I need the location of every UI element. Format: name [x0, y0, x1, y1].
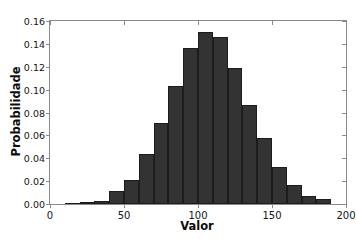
y-tick-label: 0.16 [24, 16, 45, 27]
y-tick-mark [46, 90, 50, 91]
histogram-figure: 0.000.020.040.060.080.100.120.140.16 050… [0, 0, 356, 239]
x-tick-mark-top [124, 21, 125, 25]
histogram-bar [316, 199, 331, 204]
histogram-bar [154, 123, 169, 204]
y-tick-mark-right [342, 181, 346, 182]
histogram-bar [124, 180, 139, 204]
y-tick-label: 0.08 [24, 107, 45, 118]
y-tick-label: 0.02 [24, 176, 45, 187]
histogram-bar [94, 201, 109, 204]
x-tick-mark [198, 204, 199, 208]
y-tick-label: 0.10 [24, 84, 45, 95]
histogram-bar [257, 138, 272, 204]
histogram-bar [139, 154, 154, 204]
histogram-bar [65, 203, 80, 204]
y-tick-label: 0.04 [24, 153, 45, 164]
x-tick-mark [50, 204, 51, 208]
x-tick-mark-top [346, 21, 347, 25]
x-tick-mark [346, 204, 347, 208]
histogram-bar [213, 37, 228, 204]
plot-area: 0.000.020.040.060.080.100.120.140.16 050… [49, 20, 347, 205]
y-tick-mark [46, 158, 50, 159]
y-tick-mark-right [342, 135, 346, 136]
histogram-bar [80, 202, 95, 204]
histogram-bar [228, 68, 243, 204]
histogram-bar [168, 86, 183, 204]
histogram-bar [287, 185, 302, 204]
histogram-bar [272, 167, 287, 204]
histogram-bar [183, 48, 198, 204]
x-tick-mark-top [198, 21, 199, 25]
y-tick-mark [46, 113, 50, 114]
y-tick-mark [46, 135, 50, 136]
y-tick-label: 0.00 [24, 199, 45, 210]
y-tick-label: 0.06 [24, 130, 45, 141]
x-tick-mark-top [272, 21, 273, 25]
y-tick-mark [46, 67, 50, 68]
y-tick-mark [46, 181, 50, 182]
x-axis-label: Valor [49, 219, 345, 233]
histogram-bar [302, 196, 317, 204]
y-tick-mark-right [342, 44, 346, 45]
x-tick-mark-top [50, 21, 51, 25]
y-tick-mark [46, 44, 50, 45]
y-tick-label: 0.12 [24, 61, 45, 72]
y-tick-mark-right [342, 90, 346, 91]
x-tick-mark [272, 204, 273, 208]
bar-series [50, 21, 346, 204]
histogram-bar [242, 105, 257, 205]
histogram-bar [109, 191, 124, 204]
histogram-bar [198, 32, 213, 204]
y-axis-label: Probabilidade [9, 20, 23, 203]
y-tick-label: 0.14 [24, 38, 45, 49]
y-tick-mark-right [342, 158, 346, 159]
y-tick-mark-right [342, 113, 346, 114]
y-tick-mark-right [342, 67, 346, 68]
x-tick-mark [124, 204, 125, 208]
